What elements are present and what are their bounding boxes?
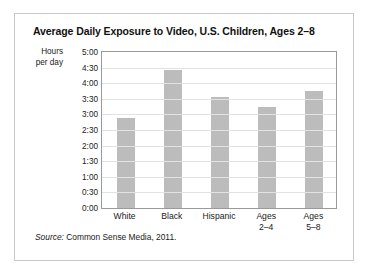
gridline bbox=[102, 114, 336, 115]
gridline bbox=[102, 68, 336, 69]
gridline bbox=[102, 83, 336, 84]
y-axis-tick-label: 3:00 bbox=[65, 110, 98, 119]
chart-title: Average Daily Exposure to Video, U.S. Ch… bbox=[33, 25, 343, 37]
gridline bbox=[102, 99, 336, 100]
x-axis-tick-label: Ages 5–8 bbox=[290, 211, 337, 232]
x-axis-tick-label: Black bbox=[148, 211, 195, 222]
y-axis-tick-label: 1:30 bbox=[65, 157, 98, 166]
y-axis-tick-label: 3:30 bbox=[65, 94, 98, 103]
gridline bbox=[102, 161, 336, 162]
plot-area bbox=[101, 51, 337, 209]
y-axis-tick-label: 2:00 bbox=[65, 141, 98, 150]
x-axis-tick-label: White bbox=[101, 211, 148, 222]
y-axis-tick-label: 2:30 bbox=[65, 126, 98, 135]
gridline bbox=[102, 177, 336, 178]
bar[interactable] bbox=[211, 97, 229, 208]
x-axis-tick-label: Hispanic bbox=[195, 211, 242, 222]
y-axis-tick-label: 4:30 bbox=[65, 63, 98, 72]
gridline bbox=[102, 130, 336, 131]
y-axis-title: Hours per day bbox=[23, 47, 63, 68]
y-axis-title-line-2: per day bbox=[23, 58, 63, 69]
y-axis-tick-label: 0:30 bbox=[65, 188, 98, 197]
bar[interactable] bbox=[117, 118, 135, 208]
x-axis-tick-label: Ages 2–4 bbox=[243, 211, 290, 232]
y-axis-tick-label: 5:00 bbox=[65, 48, 98, 57]
bar[interactable] bbox=[164, 70, 182, 208]
source-note: Source: Common Sense Media, 2011. bbox=[35, 232, 176, 242]
source-value: Common Sense Media, 2011. bbox=[64, 232, 177, 242]
y-axis-tick-label: 4:00 bbox=[65, 79, 98, 88]
y-axis-tick-label: 0:00 bbox=[65, 204, 98, 213]
figure-container: Average Daily Exposure to Video, U.S. Ch… bbox=[14, 13, 354, 261]
bar[interactable] bbox=[305, 91, 323, 208]
y-axis-tick-labels: 0:000:301:001:302:002:303:003:304:004:30… bbox=[65, 51, 98, 209]
gridline bbox=[102, 146, 336, 147]
source-label: Source: bbox=[35, 232, 64, 242]
y-axis-tick-label: 1:00 bbox=[65, 172, 98, 181]
gridline bbox=[102, 192, 336, 193]
y-axis-title-line-1: Hours bbox=[23, 47, 63, 58]
